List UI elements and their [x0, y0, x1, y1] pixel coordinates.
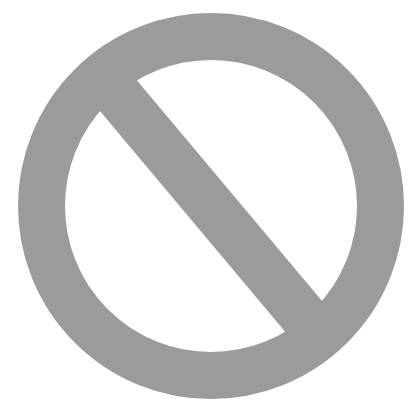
prohibited-icon	[0, 0, 418, 409]
prohibited-sign: Prohibited sign	[0, 0, 418, 409]
